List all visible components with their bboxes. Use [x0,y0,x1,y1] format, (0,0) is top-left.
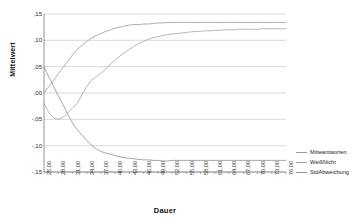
x-tick-label: 25,00 [46,161,52,175]
x-tick-label: 52,00 [174,161,180,175]
legend-item[interactable]: Mitteantworten [296,148,363,157]
x-tick-label: 49,00 [160,161,166,175]
x-tick-label: 28,00 [60,161,66,175]
x-axis-tick-labels: 25,0028,0031,0034,0037,0040,0043,0046,00… [0,0,363,222]
x-tick-label: 37,00 [103,161,109,175]
x-tick-label: 46,00 [146,161,152,175]
x-tick-label: 31,00 [75,161,81,175]
x-tick-label: 76,00 [288,161,294,175]
x-tick-label: 73,00 [274,161,280,175]
chart-container: Mittelwert ,15,10,05,00-,05-,10-,15 25,0… [0,0,363,222]
legend-line-icon [296,152,307,153]
legend-item[interactable]: StdAbweichung [296,168,363,177]
chart-legend: Mitteantworten WeißNicht StdAbweichung [296,148,363,178]
x-tick-label: 61,00 [217,161,223,175]
legend-item-label: Mitteantworten [310,149,347,156]
legend-item-label: WeißNicht [310,159,336,166]
legend-line-icon [296,162,307,163]
legend-line-icon [296,172,307,173]
x-tick-label: 34,00 [89,161,95,175]
legend-item-label: StdAbweichung [310,169,349,176]
x-tick-label: 64,00 [231,161,237,175]
x-tick-label: 67,00 [245,161,251,175]
x-tick-label: 70,00 [260,161,266,175]
x-tick-label: 55,00 [189,161,195,175]
legend-item[interactable]: WeißNicht [296,158,363,167]
x-tick-label: 58,00 [203,161,209,175]
x-tick-label: 43,00 [132,161,138,175]
x-tick-label: 40,00 [117,161,123,175]
x-axis-title: Dauer [44,206,286,215]
